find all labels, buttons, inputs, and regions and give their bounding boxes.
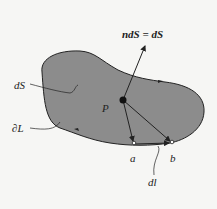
point-a-label: a	[130, 153, 136, 164]
normal-vector-label: ndS = dS	[122, 29, 163, 40]
boundary-label: ∂L	[12, 123, 24, 134]
point-p-label: P	[102, 103, 109, 114]
dl-leader	[154, 146, 159, 175]
line-element-label: dl	[148, 177, 157, 188]
point-b-label: b	[170, 153, 176, 164]
point-a-dot	[132, 141, 136, 145]
point-p-dot	[120, 97, 127, 104]
surface-element-label: dS	[14, 80, 25, 91]
point-b-dot	[170, 140, 174, 144]
figure-canvas: ndS = dS dS P ∂L a b dl	[0, 0, 217, 209]
